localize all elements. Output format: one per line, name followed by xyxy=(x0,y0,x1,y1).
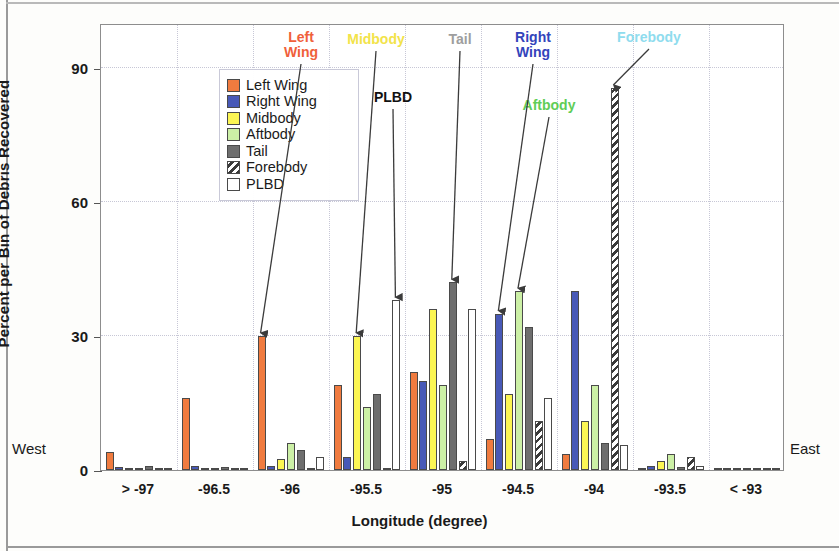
bar xyxy=(145,466,153,470)
annotation-label: Aftbody xyxy=(510,98,588,113)
x-tick-label-1: -96.5 xyxy=(176,481,252,497)
bar xyxy=(383,468,391,470)
bar xyxy=(571,291,579,470)
bar xyxy=(657,461,665,470)
x-tick-label-8: < -93 xyxy=(708,481,784,497)
bar xyxy=(125,468,133,470)
annotation-label: Midbody xyxy=(338,32,414,47)
bar xyxy=(135,468,143,470)
bar xyxy=(240,468,248,470)
bar xyxy=(687,457,695,470)
legend-item-label: Aftbody xyxy=(246,127,295,142)
bar xyxy=(429,309,437,470)
legend-item-label: Right Wing xyxy=(246,94,317,109)
annotation-label: Forebody xyxy=(605,30,693,45)
legend-item: Midbody xyxy=(227,111,351,126)
bar xyxy=(164,468,172,470)
bar xyxy=(277,459,285,470)
chart-legend: Left WingRight WingMidbodyAftbodyTailFor… xyxy=(219,69,359,201)
bar xyxy=(287,443,295,470)
bar xyxy=(221,467,229,470)
x-tick-label-7: -93.5 xyxy=(632,481,708,497)
bar xyxy=(505,394,513,470)
bar xyxy=(535,421,543,470)
bar xyxy=(307,468,315,470)
legend-item-label: Tail xyxy=(246,144,268,159)
bar xyxy=(267,466,275,470)
bar-group xyxy=(481,25,557,470)
bar xyxy=(753,468,761,470)
bar xyxy=(468,309,476,470)
x-axis-title: Longitude (degree) xyxy=(0,512,839,529)
legend-item: Forebody xyxy=(227,160,351,175)
bar xyxy=(115,467,123,470)
bar xyxy=(638,468,646,470)
page-border-top xyxy=(6,2,839,4)
compass-east-label: East xyxy=(790,440,820,457)
bar xyxy=(515,291,523,470)
bar xyxy=(743,468,751,470)
y-axis-title: Percent per Bin of Debris Recovered xyxy=(0,0,12,449)
bar xyxy=(620,445,628,470)
bar xyxy=(258,336,266,470)
bar xyxy=(231,468,239,470)
bar xyxy=(601,443,609,470)
legend-swatch-icon xyxy=(227,112,240,125)
bar xyxy=(353,336,361,470)
bar xyxy=(581,421,589,470)
legend-item: Right Wing xyxy=(227,94,351,109)
bar xyxy=(763,468,771,470)
bar xyxy=(316,457,324,470)
annotation-label: PLBD xyxy=(360,90,426,105)
y-tick-label-60: 60 xyxy=(44,194,88,211)
bar xyxy=(611,88,619,470)
bar xyxy=(410,372,418,470)
y-tick-label-90: 90 xyxy=(44,60,88,77)
annotation-label: Tail xyxy=(432,32,488,47)
bar xyxy=(106,452,114,470)
y-tick-label-30: 30 xyxy=(44,328,88,345)
bar xyxy=(211,468,219,470)
page-border-bottom xyxy=(6,546,839,548)
legend-item: PLBD xyxy=(227,177,351,192)
bar-group xyxy=(101,25,177,470)
bar xyxy=(155,468,163,470)
bar xyxy=(182,398,190,470)
annotation-label: Left Wing xyxy=(268,30,334,60)
bar xyxy=(696,466,704,470)
y-tick-label-0: 0 xyxy=(44,462,88,479)
bar xyxy=(334,385,342,470)
legend-item-label: PLBD xyxy=(246,177,284,192)
legend-item: Tail xyxy=(227,144,351,159)
chart-figure: Percent per Bin of Debris Recovered 0306… xyxy=(0,0,839,551)
bar xyxy=(373,394,381,470)
bar xyxy=(667,454,675,470)
compass-west-label: West xyxy=(12,440,46,457)
x-tick-label-2: -96 xyxy=(252,481,328,497)
plot-area: Left WingRight WingMidbodyAftbodyTailFor… xyxy=(100,24,784,471)
legend-swatch-icon xyxy=(227,161,240,174)
bar xyxy=(723,468,731,470)
annotation-label: Right Wing xyxy=(500,30,566,60)
bar xyxy=(772,468,780,470)
x-tick-label-3: -95.5 xyxy=(328,481,404,497)
x-tick-label-4: -95 xyxy=(404,481,480,497)
x-tick-label-5: -94.5 xyxy=(480,481,556,497)
bar xyxy=(677,467,685,470)
legend-swatch-icon xyxy=(227,95,240,108)
legend-item: Aftbody xyxy=(227,127,351,142)
bar xyxy=(363,407,371,470)
bar-group xyxy=(557,25,633,470)
bar-group xyxy=(633,25,709,470)
bar xyxy=(714,468,722,470)
bar xyxy=(562,454,570,470)
x-tick-label-0: > -97 xyxy=(100,481,176,497)
legend-item-label: Midbody xyxy=(246,111,301,126)
y-tick-mark-0 xyxy=(94,471,102,472)
bar xyxy=(733,468,741,470)
legend-swatch-icon xyxy=(227,79,240,92)
bar xyxy=(459,461,467,470)
bar xyxy=(201,468,209,470)
legend-swatch-icon xyxy=(227,145,240,158)
legend-item-label: Left Wing xyxy=(246,78,307,93)
